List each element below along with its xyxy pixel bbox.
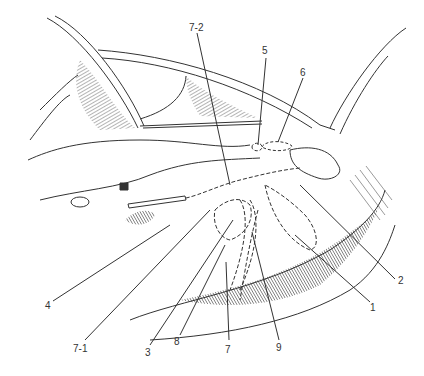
anatomical-diagram: 7-2 5 6 2 1 4 7-1 3 8 7 9 (0, 0, 424, 376)
label-7-2: 7-2 (189, 23, 203, 33)
label-3: 3 (145, 348, 151, 358)
label-9: 9 (276, 343, 282, 353)
label-7-1: 7-1 (73, 344, 87, 354)
label-5: 5 (262, 46, 268, 56)
diagram-drawing (0, 0, 424, 376)
label-2: 2 (398, 276, 404, 286)
label-8: 8 (174, 337, 180, 347)
label-6: 6 (300, 68, 306, 78)
label-4: 4 (45, 301, 51, 311)
label-7: 7 (225, 345, 231, 355)
label-1: 1 (370, 303, 376, 313)
